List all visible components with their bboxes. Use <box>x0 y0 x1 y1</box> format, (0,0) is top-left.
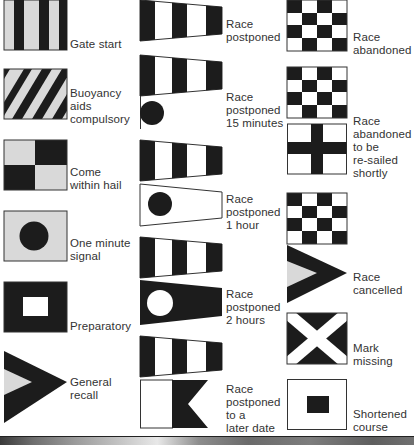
label-race-postponed-1h: Race postponed 1 hour <box>226 193 281 232</box>
label-preparatory: Preparatory <box>70 320 131 333</box>
flag-one-minute <box>4 211 67 261</box>
flag-preparatory <box>4 282 67 332</box>
flag-buoyancy-aids <box>4 69 67 119</box>
flag-race-cancelled <box>287 193 347 325</box>
flag-mark-missing <box>287 313 347 364</box>
flag-race-abandoned-resail <box>287 67 347 175</box>
bottom-photo-strip <box>0 436 414 445</box>
flag-general-recall <box>4 351 67 423</box>
label-mark-missing: Mark missing <box>353 342 393 368</box>
label-race-postponed-later: Race postponed to a later date <box>226 383 281 435</box>
label-race-abandoned-resail: Race abandoned to be re-sailed shortly <box>353 115 411 180</box>
label-gate-start: Gate start <box>70 38 122 51</box>
flag-race-abandoned <box>287 0 347 51</box>
flag-race-postponed <box>140 0 222 42</box>
label-race-postponed-2h: Race postponed 2 hours <box>226 288 281 327</box>
label-buoyancy-aids: Buoyancy aids compulsory <box>70 87 130 126</box>
flag-gate-start <box>4 0 67 50</box>
flag-race-postponed-2h <box>140 237 222 325</box>
flag-race-postponed-later <box>140 336 222 428</box>
label-one-minute: One minute signal <box>70 237 130 263</box>
label-shortened-course: Shortened course <box>353 408 407 434</box>
label-race-abandoned: Race abandoned <box>353 31 411 57</box>
label-race-postponed-15: Race postponed 15 minutes <box>226 91 283 130</box>
label-race-postponed: Race postponed <box>226 18 281 44</box>
flag-race-postponed-15 <box>140 55 222 129</box>
flag-race-postponed-1h <box>140 140 222 226</box>
label-come-within-hail: Come within hail <box>70 166 122 192</box>
flag-come-within-hail <box>4 140 67 190</box>
flag-shortened-course <box>287 379 347 430</box>
label-general-recall: General recall <box>70 376 112 402</box>
label-race-cancelled: Race cancelled <box>353 271 403 297</box>
